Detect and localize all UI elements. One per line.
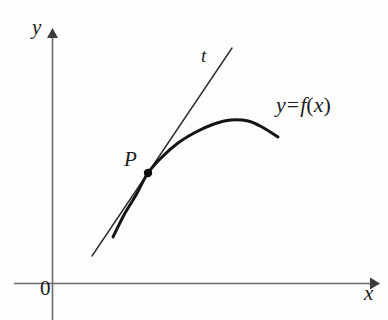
x-axis-label: x (364, 283, 373, 304)
y-axis-label: y (32, 17, 41, 38)
function-label-equals: = (286, 92, 300, 117)
tangent-line (92, 48, 232, 256)
function-label-open-paren: ( (306, 92, 313, 117)
y-axis-arrowhead (47, 28, 58, 38)
function-label-close-paren: ) (323, 92, 330, 117)
function-curve (113, 120, 278, 237)
figure-canvas (0, 0, 388, 320)
origin-label: 0 (40, 278, 51, 299)
tangent-line-figure: y x 0 P t y=f(x) (0, 0, 388, 320)
tangent-line-label: t (201, 46, 206, 65)
point-p-marker (144, 169, 152, 177)
function-equation-label: y=f(x) (276, 94, 331, 116)
point-p-label: P (124, 149, 137, 170)
function-label-y: y (276, 92, 286, 117)
function-label-var: x (314, 92, 324, 117)
